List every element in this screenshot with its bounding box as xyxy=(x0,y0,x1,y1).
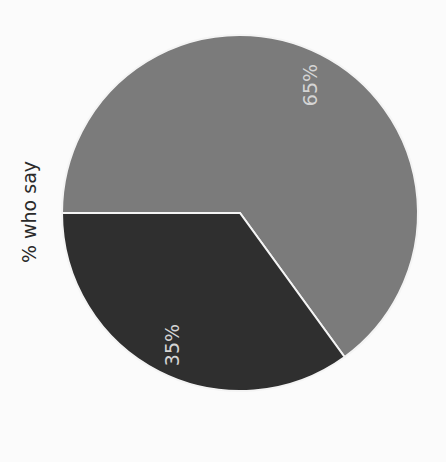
pie xyxy=(62,35,418,391)
axis-label: % who say xyxy=(18,161,40,263)
pie-chart: 65% 35% % who say xyxy=(0,0,446,462)
slice-label-65: 65% xyxy=(299,64,321,106)
slice-label-35: 35% xyxy=(161,324,183,366)
